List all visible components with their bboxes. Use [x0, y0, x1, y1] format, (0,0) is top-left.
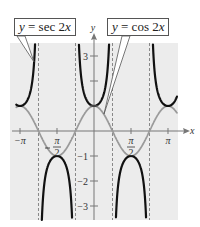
- svg-text:2: 2: [129, 147, 134, 158]
- y-axis-label: y: [90, 22, 96, 33]
- x-axis-arrow-icon: [183, 128, 190, 134]
- cos-label-x: x: [159, 19, 165, 34]
- sec-label-callout: y = sec 2x: [14, 18, 76, 36]
- x-axis-label: x: [189, 125, 195, 136]
- y-tick-label: −3: [77, 201, 88, 212]
- y-tick-label: 3: [83, 51, 88, 62]
- y-tick-label: −2: [77, 176, 88, 187]
- y-tick-label: −1: [77, 151, 88, 162]
- svg-text:2: 2: [54, 147, 59, 158]
- x-tick-label: −π: [14, 135, 27, 146]
- cos-label-callout: y = cos 2x: [107, 18, 169, 36]
- y-axis-arrow-icon: [91, 33, 97, 40]
- sec-label-text: = sec 2: [25, 19, 65, 34]
- sec-label-x: x: [65, 19, 71, 34]
- cos-label-text: = cos 2: [118, 19, 159, 34]
